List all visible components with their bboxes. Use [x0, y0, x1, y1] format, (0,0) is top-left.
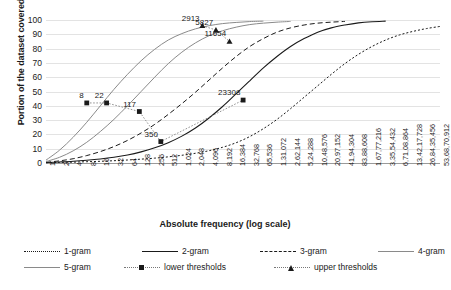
- lower-threshold-marker: [241, 98, 246, 103]
- legend-item-upper-thresholds[interactable]: upper thresholds: [274, 260, 377, 275]
- y-tick-label: 60: [18, 73, 42, 82]
- x-tick-label: 64: [131, 158, 138, 166]
- legend-swatch: [260, 246, 296, 257]
- x-tick-label: 53,68,70,912: [443, 124, 450, 166]
- x-tick-label: 65,536: [266, 144, 273, 166]
- legend-label: 2-gram: [182, 247, 209, 256]
- legend-swatch: [124, 262, 160, 273]
- legend-swatch: [24, 246, 60, 257]
- lower-threshold-marker: [137, 109, 142, 114]
- y-tick-label: 40: [18, 102, 42, 111]
- legend-line: [24, 267, 60, 268]
- y-tick-label: 50: [18, 88, 42, 97]
- x-tick-label: 8,192: [226, 148, 233, 166]
- lower-threshold-marker: [104, 101, 109, 106]
- legend-line: [24, 251, 60, 252]
- y-tick-label: 10: [18, 145, 42, 154]
- legend-swatch: [378, 246, 414, 257]
- legend-label: 4-gram: [418, 247, 445, 256]
- x-tick-label: 1,31,072: [280, 138, 287, 166]
- legend-line: [142, 251, 178, 252]
- y-tick-label: 90: [18, 30, 42, 39]
- x-tick-label: 26,84,35,456: [429, 124, 436, 166]
- x-tick-label: 32: [117, 158, 124, 166]
- upper-threshold-label: 5827: [195, 19, 213, 27]
- y-tick-label: 0: [18, 159, 42, 168]
- y-tick-label: 20: [18, 130, 42, 139]
- x-tick-label: 1,67,77,216: [375, 128, 382, 166]
- square-marker-icon: [139, 265, 144, 270]
- legend-row: 5-gramlower thresholdsupper thresholds: [24, 260, 434, 275]
- legend-label: 3-gram: [300, 247, 327, 256]
- x-tick-label: 5,24,288: [307, 138, 314, 166]
- upper-threshold-label: 11654: [205, 30, 227, 38]
- lower-threshold-marker: [158, 139, 163, 144]
- x-tick-label: 3,35,54,432: [389, 128, 396, 166]
- legend-item-lower-thresholds[interactable]: lower thresholds: [124, 260, 226, 275]
- lower-threshold-label: 117: [123, 101, 136, 109]
- legend-label: lower thresholds: [164, 263, 226, 272]
- triangle-marker-icon: [288, 265, 294, 271]
- x-tick-label: 10,48,576: [321, 134, 328, 166]
- x-tick-label: 1,024: [185, 148, 192, 166]
- x-tick-label: 128: [144, 154, 151, 166]
- y-tick-label: 80: [18, 45, 42, 54]
- x-tick-label: 256: [158, 154, 165, 166]
- lower-threshold-label: 8: [79, 92, 83, 100]
- x-axis-title: Absolute frequency (log scale): [0, 219, 450, 229]
- lower-threshold-label: 22: [95, 92, 104, 100]
- y-tick-label: 70: [18, 59, 42, 68]
- legend-item-3-gram[interactable]: 3-gram: [260, 244, 327, 259]
- y-tick-label: 30: [18, 116, 42, 125]
- legend-item-1-gram[interactable]: 1-gram: [24, 244, 91, 259]
- x-tick-label: 41,94,304: [348, 134, 355, 166]
- threshold-connector-lower-threshold: [87, 100, 243, 141]
- x-tick-label: 16,384: [239, 144, 246, 166]
- x-tick-label: 32,768: [253, 144, 260, 166]
- legend-line: [260, 251, 296, 252]
- x-tick-label: 2,048: [198, 148, 205, 166]
- legend-label: 5-gram: [64, 263, 91, 272]
- legend-line: [378, 251, 414, 252]
- legend-item-4-gram[interactable]: 4-gram: [378, 244, 445, 259]
- x-tick-label: 512: [171, 154, 178, 166]
- x-tick-label: 4: [76, 162, 83, 166]
- lower-threshold-label: 350: [145, 131, 158, 139]
- x-tick-label: 1: [49, 162, 56, 166]
- x-axis-tick-labels: 12481632641282565121,0242,0484,0968,1921…: [46, 166, 440, 218]
- x-tick-label: 4,096: [212, 148, 219, 166]
- chart-legend: 1-gram2-gram3-gram4-gram5-gramlower thre…: [24, 244, 434, 278]
- legend-swatch: [24, 262, 60, 273]
- legend-swatch: [274, 262, 310, 273]
- y-tick-label: 100: [18, 16, 42, 25]
- x-tick-label: 6,71,08,864: [402, 128, 409, 166]
- legend-label: upper thresholds: [314, 263, 377, 272]
- x-tick-label: 83,88,608: [361, 134, 368, 166]
- x-tick-label: 2: [63, 162, 70, 166]
- lower-threshold-label: 23308: [218, 89, 240, 97]
- x-tick-label: 8: [90, 162, 97, 166]
- lower-threshold-marker: [84, 101, 89, 106]
- x-tick-label: 13,42,17,728: [416, 124, 423, 166]
- x-tick-label: 2,62,144: [294, 138, 301, 166]
- legend-swatch: [142, 246, 178, 257]
- x-tick-label: 20,97,152: [334, 134, 341, 166]
- legend-row: 1-gram2-gram3-gram4-gram: [24, 244, 434, 259]
- legend-label: 1-gram: [64, 247, 91, 256]
- x-tick-label: 16: [103, 158, 110, 166]
- legend-item-5-gram[interactable]: 5-gram: [24, 260, 91, 275]
- y-axis-tick-labels: 0102030405060708090100: [18, 20, 42, 163]
- legend-item-2-gram[interactable]: 2-gram: [142, 244, 209, 259]
